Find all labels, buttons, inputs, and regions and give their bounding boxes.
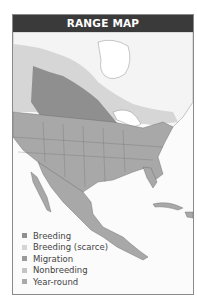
legend-item-breeding: Breeding	[22, 230, 108, 242]
map-legend: Breeding Breeding (scarce) Migration Non…	[22, 230, 108, 288]
panel-title: RANGE MAP	[13, 15, 193, 32]
hispaniola	[185, 212, 193, 218]
hudson-bay	[98, 40, 130, 78]
legend-swatch-migration	[22, 256, 27, 261]
range-map-panel: RANGE MAP Breeding	[12, 14, 194, 295]
legend-swatch-breeding-scarce	[22, 245, 27, 250]
legend-item-migration: Migration	[22, 253, 108, 265]
cuba	[153, 203, 183, 210]
legend-swatch-breeding	[22, 233, 27, 238]
legend-item-year-round: Year-round	[22, 276, 108, 288]
legend-swatch-nonbreeding	[22, 268, 27, 273]
legend-item-breeding-scarce: Breeding (scarce)	[22, 242, 108, 254]
legend-item-nonbreeding: Nonbreeding	[22, 265, 108, 277]
legend-swatch-year-round	[22, 279, 27, 284]
